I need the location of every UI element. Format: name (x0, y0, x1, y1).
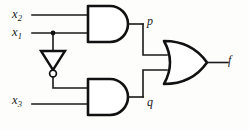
input-label-x1-subscript: 1 (18, 31, 22, 41)
input-label-x3-base: x (12, 93, 18, 107)
not-gate-bubble-icon (50, 70, 57, 77)
input-label-x2: x2 (12, 8, 22, 22)
input-label-x1: x1 (12, 26, 22, 40)
input-label-x1-base: x (12, 25, 18, 39)
wire-p-to-or-gate (143, 24, 167, 55)
node-label-q: q (147, 96, 153, 108)
junction-dot-x1 (51, 31, 56, 36)
logic-circuit-diagram: x2 x1 x3 p q f (0, 0, 249, 130)
circuit-canvas (0, 0, 249, 130)
wire-inverter-to-and-bottom (53, 77, 88, 88)
input-label-x3: x3 (12, 94, 22, 108)
input-label-x2-base: x (12, 7, 18, 21)
output-label-f: f (228, 54, 231, 66)
and-gate-top (88, 6, 128, 42)
or-gate-output (164, 41, 207, 84)
node-label-p: p (147, 15, 153, 27)
input-label-x3-subscript: 3 (18, 99, 22, 109)
not-gate-triangle (41, 51, 65, 70)
input-label-x2-subscript: 2 (18, 13, 22, 23)
and-gate-bottom (88, 79, 128, 115)
